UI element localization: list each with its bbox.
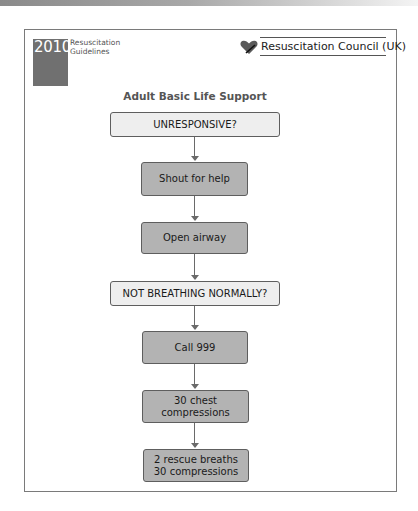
step-30-chest-compressions: 30 chest compressions [142,390,249,423]
step-unresponsive: UNRESPONSIVE? [110,112,280,137]
arrow-down-icon [191,156,199,161]
heart-icon [240,40,258,55]
badge-caption-line2: Guidelines [70,47,120,56]
organization-name: Resuscitation Council (UK) [261,40,406,53]
connector-line [194,254,195,276]
step-label: Shout for help [159,173,230,185]
badge-year: 2010 [34,40,71,55]
step-label: Open airway [163,232,226,244]
arrow-down-icon [191,275,199,280]
step-shout-for-help: Shout for help [141,162,248,196]
step-open-airway: Open airway [141,222,248,254]
step-rescue-breaths: 2 rescue breaths 30 compressions [143,449,249,482]
arrow-down-icon [191,384,199,389]
badge-caption: Resuscitation Guidelines [70,38,120,56]
connector-line [194,196,195,217]
top-gradient-bar [0,0,418,6]
step-label-line1: 2 rescue breaths [154,454,238,466]
logo-rule-bottom [260,55,386,56]
step-label-line2: 30 compressions [154,466,239,478]
arrow-down-icon [191,216,199,221]
connector-line [194,423,195,444]
step-label: UNRESPONSIVE? [153,119,237,131]
step-label: NOT BREATHING NORMALLY? [123,288,268,300]
step-label-line1: 30 chest [174,395,217,407]
connector-line [194,364,195,385]
step-call-999: Call 999 [142,331,248,364]
diagram-title: Adult Basic Life Support [0,90,390,102]
arrow-down-icon [191,443,199,448]
step-label: Call 999 [175,342,216,354]
step-label-line2: compressions [161,407,230,419]
badge-caption-line1: Resuscitation [70,38,120,47]
logo-rule-top [260,37,386,38]
connector-line [194,137,195,157]
arrow-down-icon [191,325,199,330]
connector-line [194,306,195,326]
step-not-breathing-normally: NOT BREATHING NORMALLY? [110,281,280,306]
